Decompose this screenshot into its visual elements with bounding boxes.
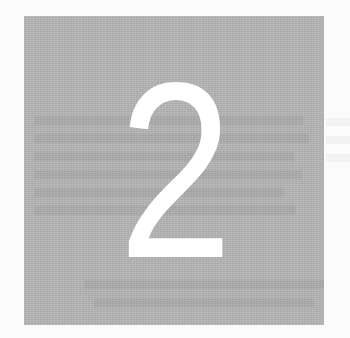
chapter-number: 2 [51, 16, 297, 325]
show-through-text-margin [326, 118, 350, 126]
show-through-text-margin [326, 136, 350, 144]
book-page: 2 [0, 0, 350, 338]
show-through-text-margin [326, 154, 350, 162]
chapter-number-block: 2 [24, 16, 324, 325]
